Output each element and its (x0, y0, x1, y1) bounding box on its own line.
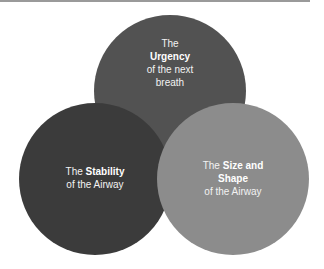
circle-urgency-text: The Urgency of the next breath (94, 37, 246, 89)
stability-keyword: Stability (86, 166, 125, 177)
circle-stability-text: The Stability of the Airway (19, 165, 171, 191)
size-keyword: Size and (223, 160, 264, 171)
circle-size-shape: The Size and Shape of the Airway (157, 103, 309, 255)
urgency-keyword: Urgency (150, 51, 190, 62)
top-border-line (0, 0, 310, 2)
circle-stability: The Stability of the Airway (19, 103, 171, 255)
shape-keyword: Shape (218, 173, 248, 184)
circle-size-shape-text: The Size and Shape of the Airway (173, 159, 293, 198)
